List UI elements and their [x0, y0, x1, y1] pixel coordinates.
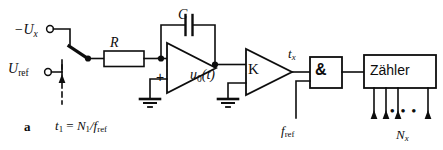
switch-common-node: [85, 55, 91, 61]
label-output-ellipsis: • • •: [390, 104, 418, 117]
wire-ux-to-switch: [54, 29, 71, 45]
label-comparator-k: K: [248, 62, 259, 77]
resistor-body: [104, 51, 144, 67]
label-opamp-noninverting: +: [156, 70, 164, 84]
wire-comparator-lower-to-ground: [228, 83, 246, 99]
caption-letter: a: [24, 120, 31, 133]
label-resistor-r: R: [110, 36, 119, 50]
wire-fref-to-and: [296, 81, 310, 118]
label-capacitor-c: C: [178, 8, 187, 22]
label-tx: tx: [288, 47, 296, 62]
counter-output-arrow-1: [371, 110, 378, 119]
label-uref: Uref: [8, 62, 29, 78]
label-opamp-output-u0: u0(t): [190, 68, 215, 84]
figure-canvas: −Ux Uref R C − + u0(t) K tx & Zähler fre…: [0, 0, 443, 150]
label-fref: fref: [281, 124, 294, 139]
caption-formula-t1: t1 = N1/fref: [55, 119, 107, 134]
switch-actuator-arrowhead: [59, 74, 66, 83]
minus-ux-terminal-circle: [47, 26, 54, 33]
wire-uref-to-switch: [52, 60, 63, 72]
counter-output-arrow-4: [425, 110, 432, 119]
label-and-gate: &: [315, 62, 327, 78]
label-counter-zaehler: Zähler: [370, 63, 410, 77]
switch-blade: [69, 46, 87, 58]
label-nx: Nx: [396, 128, 409, 143]
counter-output-arrow-2: [383, 110, 390, 119]
label-opamp-inverting: −: [156, 50, 165, 65]
uref-terminal-circle: [45, 69, 52, 76]
label-minus-ux: −Ux: [14, 23, 38, 39]
